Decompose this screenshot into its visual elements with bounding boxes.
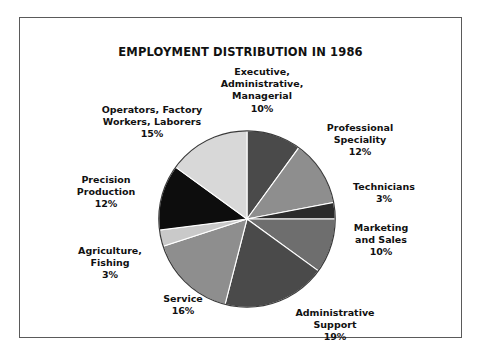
label-line: Executive, — [206, 66, 318, 78]
label-executive-administrative-managerial: Executive, Administrative, Managerial 10… — [206, 66, 318, 115]
label-line: Support — [276, 319, 394, 331]
label-line: Administrative — [276, 307, 394, 319]
label-precision-production: Precision Production 12% — [50, 174, 162, 211]
label-line: and Sales — [330, 234, 432, 246]
label-percent: 10% — [330, 246, 432, 258]
label-line: Service — [132, 293, 234, 305]
label-line: Operators, Factory — [82, 104, 222, 116]
label-agriculture-fishing: Agriculture, Fishing 3% — [54, 245, 166, 282]
label-percent: 3% — [54, 269, 166, 281]
label-line: Marketing — [330, 222, 432, 234]
label-percent: 10% — [206, 103, 318, 115]
label-administrative-support: Administrative Support 19% — [276, 307, 394, 344]
label-percent: 3% — [332, 193, 436, 205]
label-percent: 15% — [82, 128, 222, 140]
label-operators-factory-workers-laborers: Operators, Factory Workers, Laborers 15% — [82, 104, 222, 141]
label-percent: 19% — [276, 331, 394, 343]
label-line: Production — [50, 186, 162, 198]
label-line: Administrative, — [206, 78, 318, 90]
label-line: Professional — [308, 122, 412, 134]
label-percent: 12% — [50, 198, 162, 210]
label-line: Fishing — [54, 257, 166, 269]
screenshot-root: EMPLOYMENT DISTRIBUTION IN 1986 Executiv… — [0, 0, 481, 357]
label-line: Managerial — [206, 90, 318, 102]
label-line: Workers, Laborers — [82, 116, 222, 128]
chart-frame: EMPLOYMENT DISTRIBUTION IN 1986 Executiv… — [19, 17, 462, 338]
label-marketing-and-sales: Marketing and Sales 10% — [330, 222, 432, 259]
label-line: Speciality — [308, 134, 412, 146]
label-line: Precision — [50, 174, 162, 186]
page-title: EMPLOYMENT DISTRIBUTION IN 1986 — [20, 45, 461, 59]
label-line: Agriculture, — [54, 245, 166, 257]
label-technicians: Technicians 3% — [332, 181, 436, 205]
label-line: Technicians — [332, 181, 436, 193]
label-percent: 16% — [132, 305, 234, 317]
label-professional-speciality: Professional Speciality 12% — [308, 122, 412, 159]
label-percent: 12% — [308, 146, 412, 158]
label-service: Service 16% — [132, 293, 234, 317]
